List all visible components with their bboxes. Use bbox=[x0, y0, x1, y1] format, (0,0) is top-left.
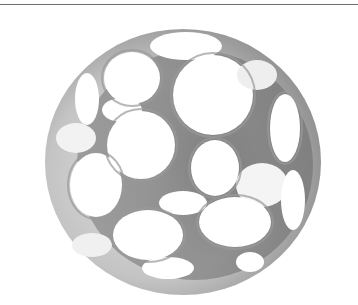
lattice-ball-photo: Grayscale photo of a hollow plastic ball… bbox=[0, 0, 358, 305]
lattice-ball-illustration bbox=[0, 0, 358, 305]
